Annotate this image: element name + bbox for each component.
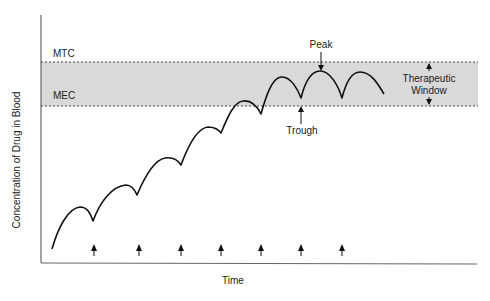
dose-arrow-icon: [136, 244, 142, 256]
y-axis-label: Concentration of Drug in Blood: [11, 92, 22, 229]
dose-arrow-icon: [339, 244, 345, 256]
therapeutic-window-label-1: Therapeutic: [403, 73, 456, 84]
peak-label: Peak: [310, 39, 334, 50]
dose-arrow-icon: [218, 244, 224, 256]
pharmacokinetics-chart: MTC MEC Peak Trough Therapeutic Window T…: [0, 0, 490, 301]
dose-arrow-icon: [298, 244, 304, 256]
trough-arrow-icon: [298, 106, 304, 124]
x-axis-label: Time: [222, 275, 244, 286]
therapeutic-band: [41, 62, 478, 106]
mtc-label: MTC: [53, 48, 75, 59]
trough-label: Trough: [286, 125, 317, 136]
dose-arrow-icon: [258, 244, 264, 256]
x-axis: [41, 263, 477, 264]
therapeutic-window-label-2: Window: [411, 85, 447, 96]
dose-arrow-icon: [178, 244, 184, 256]
dose-arrow-icon: [91, 244, 97, 256]
dose-markers: [91, 244, 345, 256]
mec-label: MEC: [53, 90, 75, 101]
